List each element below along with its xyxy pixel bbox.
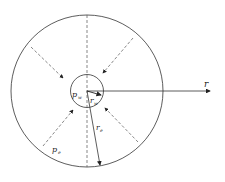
- r-axis-label: r: [204, 79, 209, 89]
- inflow-arrow-top-left: [31, 47, 63, 78]
- re-subscript: e: [100, 128, 103, 133]
- rw-subscript: w: [94, 101, 98, 106]
- inflow-arrow-top-right: [103, 38, 133, 73]
- inflow-arrow-bottom-right: [105, 108, 138, 142]
- pw-subscript: w: [78, 95, 82, 100]
- pe-subscript: e: [58, 150, 61, 155]
- radial-flow-diagram: r p w r w r e p e: [0, 0, 225, 182]
- pe-label: p: [52, 145, 57, 154]
- pw-label: p: [72, 90, 77, 99]
- rw-radius-arrow: [87, 91, 101, 95]
- inflow-arrow-bottom-left: [43, 110, 73, 146]
